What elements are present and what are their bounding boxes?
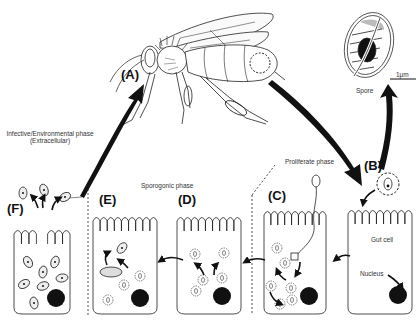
cell-c-microvilli	[264, 212, 326, 226]
gut-cell-label: Gut cell	[371, 236, 393, 243]
arrow-d-1	[196, 264, 204, 275]
stage-label-c: (C)	[268, 188, 286, 203]
stage-label-a: (A)	[121, 67, 139, 82]
meront-1	[119, 280, 129, 290]
arrow-d-to-e	[160, 258, 183, 262]
meront-6	[217, 273, 227, 283]
meront-5	[198, 275, 208, 285]
meront-9	[280, 258, 290, 268]
stage-b-spore	[377, 173, 399, 195]
spore-2-dot	[64, 196, 66, 198]
spore-7-dot	[42, 285, 44, 287]
spore-8-dot	[61, 277, 63, 279]
arrow-b-to-cell	[363, 190, 375, 204]
infective-phase-line1: Infective/Environmental phase	[4, 130, 96, 137]
scale-bar-label: 1μm	[396, 71, 409, 78]
arrow-e-1	[119, 260, 128, 268]
arrow-d-2	[214, 264, 217, 275]
arrow-c-1	[296, 262, 300, 275]
nucleus-2	[213, 287, 231, 305]
meront-11	[286, 283, 296, 293]
spore-6-dot	[23, 283, 25, 285]
spore-label: Spore	[356, 87, 373, 94]
nucleus-4	[389, 286, 407, 304]
cell-gut-microvilli	[348, 211, 412, 225]
nucleus-1	[131, 289, 149, 307]
life-cycle-diagram	[0, 0, 420, 323]
cell-e-microvilli	[93, 218, 157, 232]
nucleus-label: Nucleus	[360, 270, 383, 277]
nucleus-0	[47, 289, 65, 307]
meront-13	[287, 295, 297, 305]
infective-phase-line2: (Extracellular)	[4, 137, 96, 144]
meront-2	[103, 295, 113, 305]
stage-label-b: (B)	[364, 158, 382, 173]
spore-10-dot	[121, 247, 123, 249]
meront-7	[191, 286, 201, 296]
cell-d-membrane	[177, 231, 241, 314]
sporoplasm	[291, 253, 298, 260]
nucleus-3	[300, 287, 318, 305]
spore-4-dot	[54, 261, 56, 263]
spore-0-dot	[22, 192, 24, 194]
arrow-c-2	[277, 270, 286, 280]
stage-label-f: (F)	[7, 201, 24, 216]
infective-phase-label: Infective/Environmental phase (Extracell…	[4, 130, 96, 144]
arrow-c-to-d	[245, 259, 265, 262]
sporogonic-phase-label: Sporogonic phase	[141, 182, 193, 189]
stage-label-e: (E)	[99, 192, 116, 207]
spore-9-dot	[33, 302, 35, 304]
meront-4	[219, 248, 229, 258]
cell-d-microvilli	[177, 218, 241, 232]
arrow-bee-to-gut	[268, 80, 362, 186]
spore-1-dot	[43, 189, 45, 191]
spore-illustration	[337, 7, 400, 83]
arrow-nucleus-pointer	[388, 275, 402, 288]
arrow-f-3	[52, 198, 60, 210]
stage-label-d: (D)	[178, 192, 196, 207]
cell-f-microvilli	[14, 231, 70, 245]
spore-5-dot	[42, 271, 44, 273]
polar-tube	[296, 185, 316, 256]
meront-3	[190, 249, 200, 259]
proliferate-phase-label: Proliferate phase	[285, 158, 334, 165]
arrow-f-1	[32, 196, 38, 208]
meront-8	[272, 243, 282, 253]
meront-0	[135, 271, 145, 281]
dividing-sporont	[100, 267, 122, 277]
spore-3-dot	[27, 261, 29, 263]
meront-10	[266, 281, 276, 291]
arrow-f-2	[43, 196, 44, 208]
arrow-e-2	[105, 252, 109, 265]
